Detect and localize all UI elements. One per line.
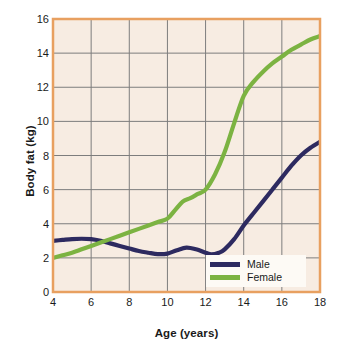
x-tick-label: 14 (224, 296, 264, 308)
x-axis-tick-labels: 4681012141618 (0, 0, 338, 350)
x-axis-title: Age (years) (53, 327, 320, 339)
chart-legend: Male Female (206, 255, 306, 287)
y-axis-title: Body fat (kg) (24, 81, 36, 241)
legend-swatch-female (210, 275, 240, 280)
legend-label-male: Male (247, 258, 270, 271)
x-tick-label: 8 (109, 296, 149, 308)
legend-label-female: Female (247, 271, 282, 284)
legend-item-female: Female (210, 271, 302, 284)
legend-item-male: Male (210, 258, 302, 271)
x-tick-label: 12 (186, 296, 226, 308)
x-tick-label: 16 (262, 296, 302, 308)
x-tick-label: 10 (147, 296, 187, 308)
x-tick-label: 4 (33, 296, 73, 308)
legend-swatch-male (210, 262, 240, 267)
x-tick-label: 18 (300, 296, 338, 308)
x-tick-label: 6 (71, 296, 111, 308)
body-fat-by-age-chart: 0246810121416 4681012141618 Body fat (kg… (0, 0, 338, 350)
